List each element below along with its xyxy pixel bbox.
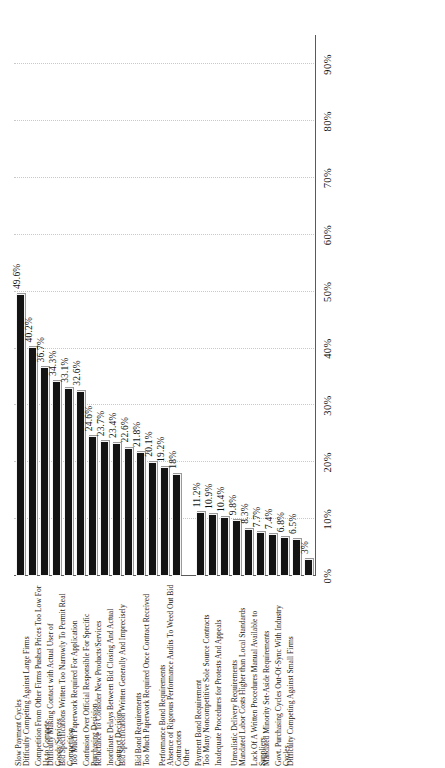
bar-value-label: 33.1%	[61, 357, 70, 383]
bar-row: 32.6%	[76, 36, 85, 576]
bar-value-label: 23.4%	[109, 412, 118, 438]
bar-row: 49.6%	[16, 36, 25, 576]
category-label: Bid Specification Written Generally And …	[119, 584, 127, 766]
bar-value-label: 11.2%	[193, 482, 202, 507]
bar-value-label: 9.8%	[229, 495, 238, 516]
bar-value-label: 32.6%	[73, 360, 82, 386]
bar	[256, 532, 265, 576]
bar-value-label: 10.9%	[205, 484, 214, 510]
bar-row: 36.7%	[40, 36, 49, 576]
chart-figure: 49.6%40.2%36.7%34.3%33.1%32.6%24.6%23.7%…	[0, 0, 445, 768]
x-tick-label: 20%	[322, 452, 333, 472]
bar	[244, 529, 253, 576]
category-label: Absence of Rigorous Performance Audits T…	[167, 584, 184, 766]
bar-value-label: 34.3%	[49, 351, 58, 377]
bar	[148, 462, 157, 576]
bar	[172, 474, 181, 576]
x-tick-label: 80%	[322, 111, 333, 131]
category-label: Reluctance To Consider New Products/Serv…	[95, 584, 103, 766]
bar-value-label: 23.7%	[97, 411, 106, 437]
bar-value-label: 24.6%	[85, 406, 94, 432]
bar-row: 23.4%	[112, 36, 121, 576]
bar-value-label: 7.4%	[265, 508, 274, 529]
bar	[196, 512, 205, 576]
x-tick-label: 40%	[322, 338, 333, 358]
x-tick-label: 60%	[322, 225, 333, 245]
bar	[232, 520, 241, 576]
bar-value-label: 22.6%	[121, 417, 130, 443]
category-label: Too Much Paperwork Required For Applicat…	[71, 584, 79, 766]
bar-value-label: 20.1%	[145, 431, 154, 457]
bar-row: 40.2%	[28, 36, 37, 576]
bar	[100, 441, 109, 576]
bar-row: 19.2%	[160, 36, 169, 576]
category-label: Other	[183, 584, 191, 766]
bar-value-label: 49.6%	[13, 264, 22, 290]
bar-value-label: 19.2%	[157, 436, 166, 462]
bar	[52, 381, 61, 576]
bar	[268, 534, 277, 576]
bar-value-label: 18%	[169, 451, 178, 469]
bar-row: 22.6%	[124, 36, 133, 576]
bar-row: 9.8%	[232, 36, 241, 576]
bar-value-label: 10.4%	[217, 486, 226, 512]
bar	[280, 537, 289, 576]
category-label: Mandated Minority Set-Aside Requirements	[263, 584, 271, 766]
bar-row: 18%	[172, 36, 181, 576]
bar-row: 6.8%	[280, 36, 289, 576]
bar-row: 24.6%	[88, 36, 97, 576]
plot-region: 49.6%40.2%36.7%34.3%33.1%32.6%24.6%23.7%…	[14, 36, 314, 576]
category-label: Too Many Noncompetitive Sole Source Cont…	[203, 584, 211, 766]
bar-row: 20.1%	[148, 36, 157, 576]
bar	[124, 448, 133, 576]
bar-row: 21.8%	[136, 36, 145, 576]
bar-row: 8.3%	[244, 36, 253, 576]
bar	[64, 388, 73, 576]
bar-row: 7.7%	[256, 36, 265, 576]
bar-value-label: 36.7%	[37, 337, 46, 363]
x-tick-label: 50%	[322, 282, 333, 302]
bar-row: 6.5%	[292, 36, 301, 576]
category-label: Difficulty Competing Against Small Firms	[287, 584, 295, 766]
bar-value-label: 7.7%	[253, 507, 262, 528]
bar	[304, 559, 313, 576]
bar-row: 34.3%	[52, 36, 61, 576]
bar-value-label: 6.8%	[277, 512, 286, 533]
bar-value-label: 8.3%	[241, 503, 250, 524]
category-label: Inadequate Procedures for Protests And A…	[215, 584, 223, 766]
bar-value-label: 6.5%	[289, 513, 298, 534]
category-label: Mandated Labor Costs Higher than Local S…	[239, 584, 247, 766]
x-tick-label: 10%	[322, 509, 333, 529]
bar	[28, 348, 37, 577]
category-label: Difficulty Competing Against Large Firms	[23, 584, 31, 766]
bar-row: 33.1%	[64, 36, 73, 576]
bar	[220, 517, 229, 576]
x-tick-label: 30%	[322, 395, 333, 415]
x-axis-tick-labels: 0%10%20%30%40%50%60%70%80%90%	[318, 35, 340, 576]
bar-value-label: 21.8%	[133, 422, 142, 448]
bar	[208, 514, 217, 576]
x-axis-line	[315, 35, 316, 576]
bar	[88, 436, 97, 576]
bar-value-label: 3%	[301, 541, 310, 554]
bar-series: 49.6%40.2%36.7%34.3%33.1%32.6%24.6%23.7%…	[14, 36, 314, 576]
x-tick-label: 70%	[322, 168, 333, 188]
bar	[112, 443, 121, 576]
bar	[136, 452, 145, 576]
bar	[40, 367, 49, 576]
x-tick-label: 0%	[322, 569, 333, 584]
bar-row: 7.4%	[268, 36, 277, 576]
bar-row: 3%	[304, 36, 313, 576]
bar-row: 23.7%	[100, 36, 109, 576]
chart-area: 49.6%40.2%36.7%34.3%33.1%32.6%24.6%23.7%…	[0, 0, 445, 768]
x-tick-label: 90%	[322, 54, 333, 74]
bar-value-label: 40.2%	[25, 317, 34, 343]
bar	[160, 467, 169, 576]
category-label: Too Much Paperwork Required Once Contrac…	[143, 584, 151, 766]
category-axis-labels: Slow Payment CyclesDifficulty Competing …	[14, 580, 314, 768]
